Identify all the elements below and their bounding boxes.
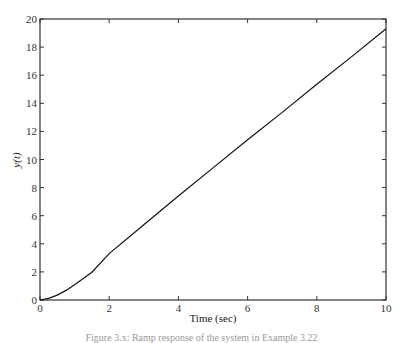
axis-ticks: [40, 19, 386, 300]
y-tick-label: 12: [26, 125, 37, 137]
x-tick-label: 8: [314, 302, 320, 314]
y-tick-label: 20: [26, 13, 38, 25]
y-tick-label: 0: [32, 294, 38, 306]
y-tick-label: 8: [32, 182, 38, 194]
tick-labels: 024681002468101214161820: [26, 13, 392, 314]
data-series-line: [40, 29, 386, 300]
y-tick-label: 16: [26, 69, 38, 81]
x-tick-label: 0: [37, 302, 43, 314]
y-tick-label: 6: [32, 210, 38, 222]
y-tick-label: 18: [26, 41, 38, 53]
figure-caption: Figure 3.x: Ramp response of the system …: [0, 332, 403, 343]
plot-area: [40, 19, 386, 300]
plot-frame: [40, 19, 386, 300]
x-tick-label: 4: [176, 302, 182, 314]
y-tick-label: 14: [26, 97, 38, 109]
y-axis-label: y(t): [10, 152, 23, 169]
y-tick-label: 2: [32, 266, 38, 278]
x-axis-label: Time (sec): [190, 312, 237, 325]
y-tick-label: 10: [26, 154, 38, 166]
x-tick-label: 10: [381, 302, 393, 314]
x-tick-label: 2: [106, 302, 112, 314]
x-tick-label: 6: [245, 302, 251, 314]
y-tick-label: 4: [32, 238, 38, 250]
